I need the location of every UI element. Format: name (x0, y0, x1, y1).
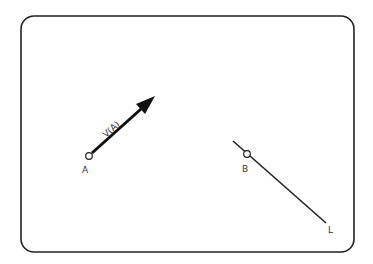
velocity-vector: V(A) (92, 96, 155, 153)
frame-border (21, 16, 354, 252)
line-l-label: L (328, 225, 333, 235)
point-b-label: B (242, 164, 248, 174)
point-a-marker (86, 153, 93, 160)
point-a: A (82, 153, 92, 175)
point-a-label: A (82, 165, 89, 175)
point-b: B (242, 151, 250, 174)
diagram-canvas: V(A) A L B (0, 0, 373, 264)
point-b-marker (244, 151, 251, 158)
